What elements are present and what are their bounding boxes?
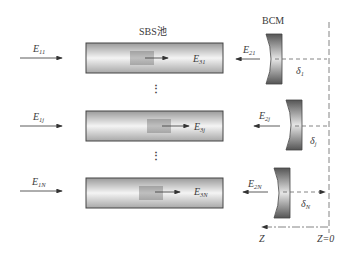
ellipsis-2: ⋮ [151,151,161,161]
label-reflected-j: E2j [259,111,270,123]
bcm-mirror-j [286,100,302,150]
label-offset-n: δN [301,199,310,211]
diagram-canvas [0,0,351,259]
z-zero-label: Z=0 [317,234,334,244]
row-j [20,100,327,150]
label-input-1: E11 [33,44,45,56]
row-1 [20,34,327,84]
label-cell-out-j: E3j [194,122,205,134]
label-reflected-n: E2N [248,179,262,191]
label-input-j: E1j [33,112,44,124]
ellipsis-1: ⋮ [151,84,161,94]
z-axis-label: Z [259,234,265,244]
bcm-mirror-n [274,168,290,218]
label-reflected-1: E21 [243,45,256,57]
label-offset-1: δ1 [296,66,304,78]
bcm-label: BCM [262,16,284,26]
row-n [20,168,325,218]
sbs-cell-title: SBS池 [139,27,167,37]
bcm-mirror-1 [266,34,282,84]
label-input-n: E1N [32,177,46,189]
label-cell-out-n: E3N [194,187,208,199]
label-cell-out-1: E31 [193,54,206,66]
label-offset-j: δj [310,136,316,148]
